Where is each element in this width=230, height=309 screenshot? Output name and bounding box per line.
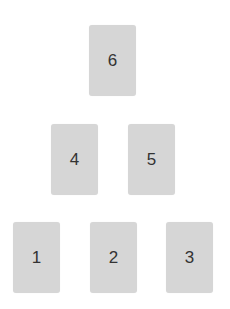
card-label: 1 [32,248,41,268]
card-label: 3 [185,248,194,268]
card-5[interactable]: 5 [128,124,175,195]
card-label: 2 [109,248,118,268]
card-2[interactable]: 2 [90,222,137,293]
card-1[interactable]: 1 [13,222,60,293]
card-label: 4 [70,150,79,170]
card-label: 6 [108,51,117,71]
card-label: 5 [147,150,156,170]
card-6[interactable]: 6 [89,25,136,96]
card-3[interactable]: 3 [166,222,213,293]
card-4[interactable]: 4 [51,124,98,195]
